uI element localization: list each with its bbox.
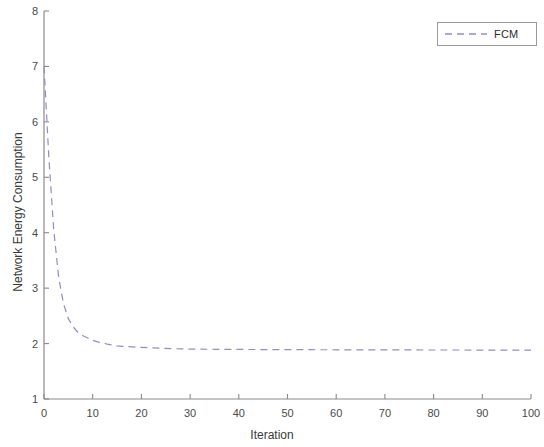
- axis-lines: [44, 11, 531, 399]
- x-tick-label: 80: [427, 408, 439, 419]
- data-series-group: [44, 66, 531, 350]
- x-tick-label: 70: [379, 408, 391, 419]
- x-tick-label: 20: [135, 408, 147, 419]
- y-tick-label: 2: [14, 338, 38, 349]
- x-tick-label: 60: [330, 408, 342, 419]
- y-axis-tick-marks: [44, 11, 49, 399]
- x-tick-label: 100: [522, 408, 540, 419]
- series-line-fcm: [44, 66, 531, 350]
- x-tick-label: 10: [87, 408, 99, 419]
- x-axis-tick-marks: [44, 394, 531, 399]
- x-tick-label: 40: [233, 408, 245, 419]
- x-tick-label: 0: [41, 408, 47, 419]
- x-axis-title: Iteration: [0, 428, 544, 442]
- x-tick-label: 90: [476, 408, 488, 419]
- legend-box[interactable]: FCM: [437, 22, 537, 46]
- y-tick-label: 1: [14, 394, 38, 405]
- y-tick-label: 8: [14, 6, 38, 17]
- y-tick-label: 7: [14, 61, 38, 72]
- chart-figure: 123456780102030405060708090100 Network E…: [0, 0, 544, 447]
- y-axis-title: Network Energy Consumption: [11, 102, 25, 322]
- x-tick-label: 30: [184, 408, 196, 419]
- legend-label-fcm: FCM: [494, 28, 518, 40]
- x-tick-label: 50: [281, 408, 293, 419]
- legend-line-sample-fcm: [445, 29, 487, 39]
- plot-canvas: [0, 0, 544, 447]
